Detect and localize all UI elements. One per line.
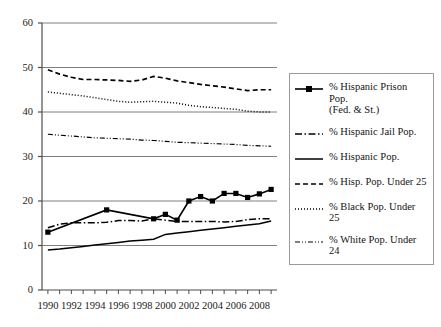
x-tick-label: 2008 — [244, 301, 274, 312]
series-marker — [210, 198, 215, 203]
legend-item: % Hispanic Jail Pop. — [294, 126, 428, 141]
legend-label: % Hispanic Prison Pop. (Fed. & St.) — [329, 81, 428, 116]
legend-label: % Hispanic Pop. — [329, 151, 399, 163]
legend-swatch-icon — [294, 202, 324, 216]
series-marker — [233, 191, 238, 196]
legend-item: % Hispanic Pop. — [294, 151, 428, 166]
legend-item: % White Pop. Under 24 — [294, 234, 428, 257]
y-tick-label: 50 — [11, 63, 33, 74]
series-line — [48, 70, 271, 91]
legend-item: % Black Pop. Under 25 — [294, 201, 428, 224]
y-tick-label: 0 — [11, 285, 33, 296]
legend-item: % Hispanic Prison Pop. (Fed. & St.) — [294, 81, 428, 116]
series-marker — [269, 187, 274, 192]
legend-swatch-icon — [294, 235, 324, 249]
series-marker — [45, 230, 50, 235]
y-tick-label: 10 — [11, 241, 33, 252]
series-line — [48, 134, 271, 146]
legend-swatch-icon — [294, 152, 324, 166]
y-tick-label: 40 — [11, 107, 33, 118]
legend-swatch-icon — [294, 177, 324, 191]
series-marker — [163, 212, 168, 217]
y-tick-label: 20 — [11, 196, 33, 207]
data-series-layer — [45, 70, 273, 250]
legend-label: % Hisp. Pop. Under 25 — [329, 176, 426, 188]
legend-label: % White Pop. Under 24 — [329, 234, 428, 257]
series-marker — [198, 194, 203, 199]
series-marker — [222, 191, 227, 196]
y-tick-label: 60 — [11, 18, 33, 29]
chart-figure: 0102030405060 19901992199419961998200020… — [0, 0, 441, 327]
y-tick-label: 30 — [11, 152, 33, 163]
series-marker — [257, 191, 262, 196]
legend-item: % Hisp. Pop. Under 25 — [294, 176, 428, 191]
legend-label: % Hispanic Jail Pop. — [329, 126, 417, 138]
series-marker — [186, 198, 191, 203]
chart-legend: % Hispanic Prison Pop. (Fed. & St.)% His… — [289, 73, 434, 265]
series-line — [48, 92, 271, 112]
legend-swatch-icon — [294, 127, 324, 141]
gridlines — [42, 23, 277, 246]
series-marker — [245, 195, 250, 200]
legend-label: % Black Pop. Under 25 — [329, 201, 428, 224]
legend-swatch-icon — [294, 82, 324, 96]
series-marker — [104, 207, 109, 212]
